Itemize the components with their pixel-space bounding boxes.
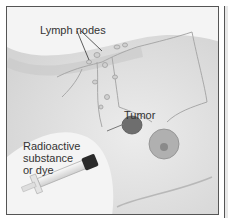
- tumor-label: Tumor: [124, 109, 155, 121]
- injection-label: Radioactive substance or dye: [23, 140, 93, 176]
- injection-label-line1: Radioactive: [23, 140, 93, 152]
- adjacent-panel-edge: [224, 6, 228, 218]
- lymph-nodes-label: Lymph nodes: [40, 24, 106, 36]
- injection-label-line2: substance: [23, 152, 93, 164]
- illustration-frame: Lymph nodes Tumor Radioactive substance …: [6, 6, 219, 215]
- anatomy-illustration: [7, 7, 219, 215]
- injection-label-line3: or dye: [23, 164, 93, 176]
- nipple: [160, 143, 168, 151]
